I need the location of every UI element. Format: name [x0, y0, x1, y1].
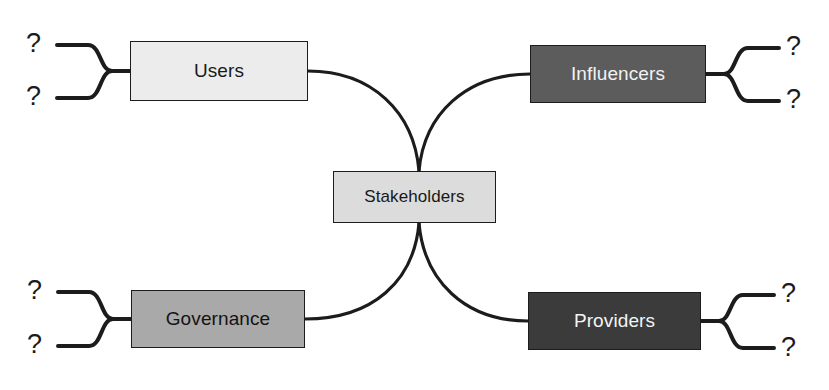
leaf-providers-2[interactable]: ?: [781, 334, 796, 361]
leaf-users-2[interactable]: ?: [26, 83, 41, 110]
node-influencers[interactable]: Influencers: [530, 45, 706, 103]
leaf-governance-2[interactable]: ?: [27, 331, 42, 358]
leaf-providers-1[interactable]: ?: [781, 280, 796, 307]
connector-users-to-center: [308, 71, 419, 171]
node-stakeholders-label: Stakeholders: [364, 187, 464, 207]
fork-governance-lower: [58, 319, 113, 346]
connector-influencers-to-center: [419, 74, 530, 171]
node-influencers-label: Influencers: [571, 63, 665, 85]
fork-providers-lower: [719, 321, 774, 348]
node-providers-label: Providers: [574, 310, 655, 332]
connector-governance-to-center: [305, 223, 419, 319]
fork-governance-upper: [58, 292, 113, 319]
leaf-users-1[interactable]: ?: [26, 30, 41, 57]
node-governance-label: Governance: [166, 308, 271, 330]
node-users-label: Users: [194, 60, 244, 82]
leaf-influencers-1[interactable]: ?: [786, 33, 801, 60]
fork-influencers-upper: [724, 48, 779, 74]
leaf-influencers-2[interactable]: ?: [786, 86, 801, 113]
connector-providers-to-center: [419, 223, 528, 321]
stakeholder-diagram: Users Influencers Stakeholders Governanc…: [0, 0, 829, 390]
fork-users-lower: [57, 71, 112, 98]
fork-providers-upper: [719, 295, 774, 321]
fork-users-upper: [57, 45, 112, 71]
node-governance[interactable]: Governance: [131, 290, 305, 348]
node-stakeholders[interactable]: Stakeholders: [333, 171, 496, 223]
fork-influencers-lower: [724, 74, 779, 101]
node-providers[interactable]: Providers: [528, 292, 701, 350]
node-users[interactable]: Users: [130, 41, 308, 101]
leaf-governance-1[interactable]: ?: [27, 277, 42, 304]
